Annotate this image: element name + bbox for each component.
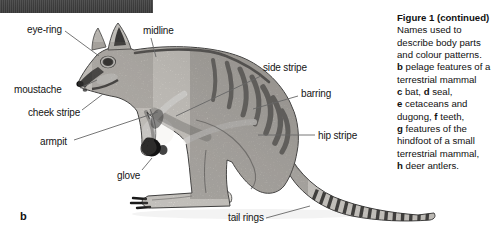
- label-cheek-stripe: cheek stripe: [28, 107, 80, 118]
- caption-line: terrestrial mammal,: [397, 148, 500, 160]
- figure-panel: eye-ring midline moustache cheek stripe …: [0, 0, 502, 240]
- label-hip-stripe: hip stripe: [318, 130, 357, 141]
- figure-caption: Figure 1 (continued) Names used todescri…: [397, 12, 500, 172]
- caption-line: and colour patterns.: [397, 49, 500, 61]
- label-barring: barring: [301, 88, 331, 99]
- caption-heading: Figure 1 (continued): [397, 12, 500, 24]
- caption-line: hindfoot of a small: [397, 135, 500, 147]
- label-side-stripe: side stripe: [263, 62, 307, 73]
- leader-line-cheek-stripe: [82, 94, 103, 110]
- label-eye-ring: eye-ring: [27, 24, 62, 35]
- panel-letter: b: [20, 210, 27, 222]
- label-glove: glove: [117, 170, 140, 181]
- caption-line: e cetaceans and: [397, 98, 500, 110]
- stipple-texture: [70, 18, 445, 223]
- label-armpit: armpit: [40, 136, 67, 147]
- caption-line: terrestrial mammal: [397, 74, 500, 86]
- caption-line: describe body parts: [397, 37, 500, 49]
- caption-line: Names used to: [397, 24, 500, 36]
- caption-line: g features of the: [397, 123, 500, 135]
- label-moustache: moustache: [14, 84, 62, 95]
- caption-body: Names used todescribe body partsand colo…: [397, 24, 500, 172]
- caption-line: b pelage features of a: [397, 61, 500, 73]
- caption-line: h deer antlers.: [397, 160, 500, 172]
- leader-line-glove: [142, 158, 152, 170]
- caption-line: dugong, f teeth,: [397, 111, 500, 123]
- caption-line: c bat, d seal,: [397, 86, 500, 98]
- label-tail-rings: tail rings: [228, 212, 264, 223]
- label-midline: midline: [143, 25, 174, 36]
